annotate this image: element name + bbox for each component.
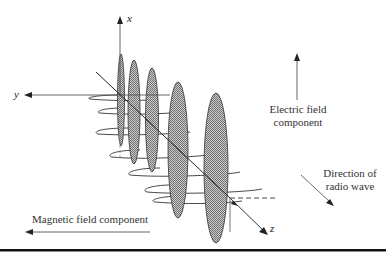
direction-label: Direction of radio wave: [318, 167, 382, 193]
direction-label-line1: Direction of: [318, 167, 382, 180]
bottom-rule: [0, 249, 386, 252]
electric-field-label: Electric field component: [268, 103, 328, 129]
direction-label-line2: radio wave: [318, 180, 382, 193]
y-axis-label: y: [14, 88, 19, 100]
electric-field-label-line1: Electric field: [268, 103, 328, 116]
electric-field-label-line2: component: [268, 116, 328, 129]
magnetic-field-label: Magnetic field component: [32, 213, 148, 226]
z-axis-label: z: [270, 222, 274, 234]
x-axis-label: x: [127, 12, 132, 24]
